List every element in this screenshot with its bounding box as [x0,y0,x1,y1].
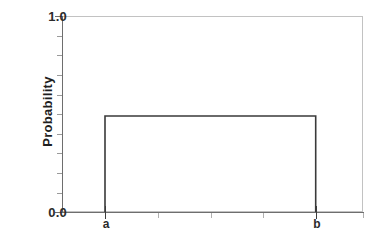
x-axis-tick-label-a: a [103,217,110,231]
y-axis-tick-label-top: 1.0 [48,9,67,24]
y-axis-minor-tick [57,36,62,37]
x-axis-minor-tick [263,213,264,218]
y-axis-minor-tick [57,153,62,154]
x-axis-spine [62,212,364,213]
y-axis-minor-tick [57,95,62,96]
y-axis-minor-tick [57,114,62,115]
x-axis-minor-tick [158,213,159,218]
y-axis-title: Probability [40,27,55,197]
y-axis-tick-label-bottom: 0.0 [48,205,67,220]
y-axis-minor-tick [57,173,62,174]
y-axis-minor-tick [57,55,62,56]
x-axis-tick-label-b: b [313,217,320,231]
y-axis-minor-tick [57,193,62,194]
chart-screenshot: 1.0 0.0 Probability a b [0,0,385,237]
y-axis-minor-tick [57,134,62,135]
x-axis-minor-tick [363,213,364,218]
y-axis-minor-tick [57,75,62,76]
y-axis-spine [62,16,63,213]
plot-area [62,16,363,212]
x-axis-minor-tick [211,213,212,218]
